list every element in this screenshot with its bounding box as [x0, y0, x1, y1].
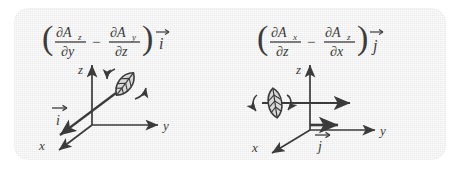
- svg-text:z: z: [77, 32, 82, 42]
- figure-root: ( ∂A z ∂y − ∂A y ∂z ): [0, 0, 458, 169]
- svg-text:j: j: [316, 139, 322, 154]
- axis-label-z: z: [295, 62, 301, 77]
- svg-text:): ): [357, 19, 368, 57]
- svg-text:x: x: [292, 32, 297, 42]
- axis-x-line: [272, 130, 310, 153]
- axis-x-line: [59, 125, 92, 150]
- svg-text:(: (: [42, 19, 53, 57]
- rotation-arrow-lower: [135, 88, 146, 99]
- svg-text:): ): [142, 19, 153, 57]
- svg-text:z: z: [346, 32, 351, 42]
- svg-text:(: (: [257, 19, 268, 57]
- axis-label-y: y: [378, 123, 386, 138]
- svg-text:−: −: [307, 34, 315, 50]
- svg-text:∂A: ∂A: [325, 25, 341, 40]
- illustration-panel: ( ∂A z ∂y − ∂A y ∂z ): [15, 9, 445, 159]
- rotation-arrow-left: [253, 95, 257, 111]
- svg-text:∂A: ∂A: [110, 25, 126, 40]
- svg-text:y: y: [131, 32, 136, 42]
- axis-label-x: x: [251, 140, 258, 155]
- svg-text:−: −: [92, 34, 100, 50]
- panel-i-component: ( ∂A z ∂y − ∂A y ∂z ): [15, 9, 230, 159]
- svg-text:i: i: [56, 113, 60, 128]
- axis-label-z: z: [77, 62, 83, 77]
- svg-text:i: i: [159, 35, 163, 52]
- svg-text:∂A: ∂A: [56, 25, 72, 40]
- vector-i-label: i: [52, 105, 67, 128]
- panel-j-component: ( ∂A x ∂z − ∂A z ∂x ) j: [230, 9, 445, 159]
- diagram-i-component: z y x i: [15, 53, 230, 159]
- axis-label-x: x: [38, 138, 45, 153]
- diagram-j-component: z y x j: [230, 53, 445, 159]
- axis-label-y: y: [161, 118, 169, 133]
- rotation-arrow-upper: [107, 69, 115, 79]
- paddlewheel-icon: [266, 87, 284, 119]
- svg-text:∂A: ∂A: [271, 25, 287, 40]
